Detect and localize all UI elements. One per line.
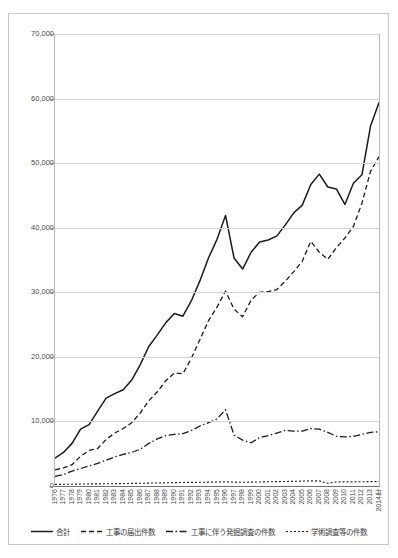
legend-item[interactable]: 学術調査等の件数 [286,526,367,537]
gridline [55,163,379,164]
x-tick-label: 1982 [102,489,109,505]
x-tick-label: 2005 [298,489,305,505]
x-tick-label: 1981 [93,489,100,505]
x-tick-label: 1992 [187,489,194,505]
legend-label: 工事の届出件数 [106,526,155,537]
series-line [55,157,379,470]
series-line [55,481,379,485]
y-tick-label: 30,000 [6,288,54,296]
x-tick-label: 1994 [204,489,211,505]
gridline [55,99,379,100]
x-tick-label: 1976 [51,489,58,505]
x-tick-label: 2000 [255,489,262,505]
x-tick-label: 1988 [153,489,160,505]
x-tick-label: 1997 [230,489,237,505]
series-line [55,102,379,458]
legend-line-swatch [166,528,188,535]
x-tick-label: 2009 [332,489,339,505]
y-tick-label: 0 [6,482,54,490]
y-tick-label: 50,000 [6,159,54,167]
x-tick-label: 1995 [213,489,220,505]
legend-line-swatch [81,528,103,535]
y-tick-label: 40,000 [6,224,54,232]
legend-item[interactable]: 工事の届出件数 [81,526,155,537]
x-tick-label: 1979 [76,489,83,505]
x-tick-label: 1980 [85,489,92,505]
gridline [55,228,379,229]
x-tick-label: 2014年 [375,489,382,512]
x-tick-label: 1984 [119,489,126,505]
x-tick-label: 2004 [289,489,296,505]
series-canvas [55,34,379,486]
x-tick-label: 2008 [323,489,330,505]
y-tick-label: 20,000 [6,353,54,361]
legend-label: 合計 [56,526,70,537]
x-tick-label: 2006 [306,489,313,505]
x-tick-label: 2010 [340,489,347,505]
legend-label: 学術調査等の件数 [311,526,367,537]
x-tick-label: 1999 [247,489,254,505]
x-tick-label: 1978 [68,489,75,505]
chart-legend: 合計工事の届出件数工事に伴う発掘調査の件数学術調査等の件数 [8,522,389,540]
legend-label: 工事に伴う発掘調査の件数 [191,526,275,537]
x-tick-label: 2011 [349,489,356,504]
x-tick-label: 2007 [315,489,322,505]
legend-line-swatch [286,528,308,535]
gridline [55,34,379,35]
legend-line-swatch [31,528,53,535]
x-tick-label: 1983 [110,489,117,505]
x-tick-label: 1996 [221,489,228,505]
y-axis: 010,00020,00030,00040,00050,00060,00070,… [0,0,54,558]
y-tick-label: 70,000 [6,30,54,38]
gridline [55,421,379,422]
x-tick-label: 1986 [136,489,143,505]
x-tick-label: 1977 [59,489,66,505]
x-tick-label: 2013 [366,489,373,505]
x-tick-label: 1989 [161,489,168,505]
x-tick-label: 2012 [357,489,364,505]
y-tick-label: 60,000 [6,95,54,103]
x-tick-label: 1993 [195,489,202,505]
x-tick-label: 1987 [144,489,151,505]
x-tick-label: 2002 [272,489,279,505]
x-tick-label: 1990 [170,489,177,505]
legend-item[interactable]: 工事に伴う発掘調査の件数 [166,526,275,537]
x-axis-labels: 1976197719781979198019811982198319841985… [54,489,380,523]
x-tick-label: 2003 [281,489,288,505]
gridline [55,357,379,358]
legend-item[interactable]: 合計 [31,526,70,537]
y-tick-label: 10,000 [6,417,54,425]
plot-area [54,34,380,487]
gridline [55,292,379,293]
x-tick-label: 1991 [178,489,185,505]
x-tick-label: 2001 [264,489,271,505]
x-tick-label: 1998 [238,489,245,505]
x-tick-label: 1985 [127,489,134,505]
chart-figure: 010,00020,00030,00040,00050,00060,00070,… [0,0,398,558]
